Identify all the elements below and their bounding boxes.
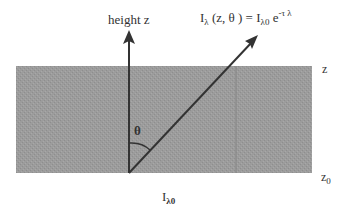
equation-rhs-sup: -τ λ bbox=[278, 8, 291, 18]
equation-label: Iλ (z, θ ) = Iλ0 e-τ λ bbox=[200, 9, 292, 27]
diagram-canvas bbox=[0, 0, 352, 219]
angle-theta-label: θ bbox=[134, 124, 141, 137]
incident-intensity-sub: λ0 bbox=[166, 196, 175, 206]
bottom-boundary-sub: 0 bbox=[326, 176, 331, 186]
absorbing-layer bbox=[16, 66, 312, 173]
incident-intensity-label: Iλ0 bbox=[162, 190, 175, 206]
top-boundary-label: z bbox=[322, 63, 327, 75]
height-axis-label: height z bbox=[108, 13, 150, 26]
bottom-boundary-label: z0 bbox=[321, 171, 331, 186]
equation-lhs-args: (z, θ ) = bbox=[209, 10, 257, 25]
